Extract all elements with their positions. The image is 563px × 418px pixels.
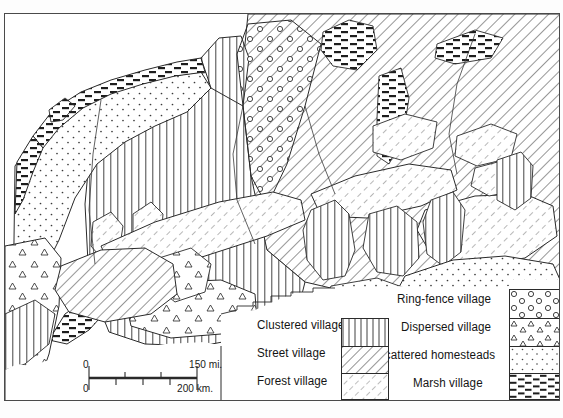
scale-bar-graphic <box>5 14 560 401</box>
map-figure: 0 150 mi. 0 200 km. Clustered village St… <box>0 0 563 418</box>
map-frame: 0 150 mi. 0 200 km. Clustered village St… <box>4 13 560 401</box>
